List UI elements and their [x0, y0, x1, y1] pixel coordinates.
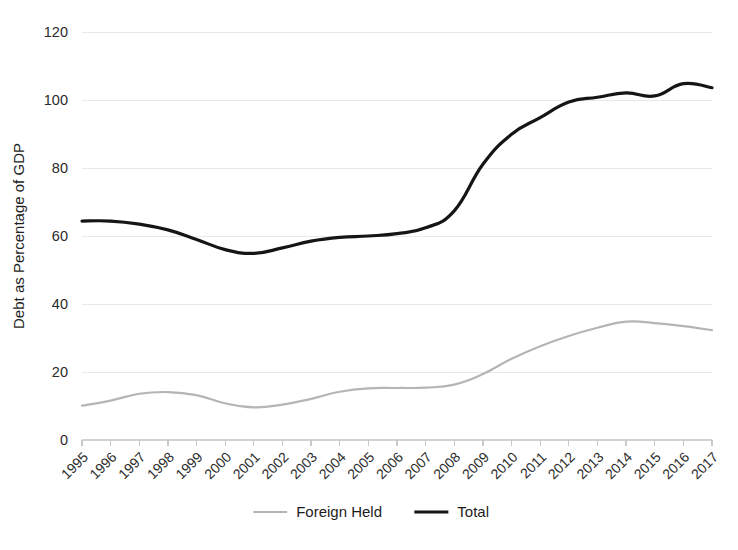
y-tick-label-80: 80: [52, 160, 68, 176]
x-tick-label-2014: 2014: [602, 449, 635, 482]
y-tick-label-120: 120: [44, 24, 68, 40]
data-series: [82, 83, 712, 407]
x-tick-label-2015: 2015: [631, 449, 664, 482]
x-tick-label-2008: 2008: [430, 449, 463, 482]
chart-container: 020406080100120 199519961997199819992000…: [0, 0, 738, 550]
x-axis-tick-labels: 1995199619971998199920002001200220032004…: [58, 449, 721, 482]
x-tick-label-1999: 1999: [172, 449, 205, 482]
x-tick-label-2013: 2013: [573, 449, 606, 482]
x-tick-label-2010: 2010: [487, 449, 520, 482]
y-tick-label-40: 40: [52, 296, 68, 312]
y-axis-tick-labels: 020406080100120: [44, 24, 68, 448]
y-tick-label-20: 20: [52, 364, 68, 380]
legend-label-total: Total: [457, 503, 489, 520]
x-tick-label-2002: 2002: [258, 449, 291, 482]
x-tick-label-2004: 2004: [316, 449, 349, 482]
x-tick-label-2009: 2009: [459, 449, 492, 482]
x-tick-label-2005: 2005: [344, 449, 377, 482]
axis-tick-marks: [82, 440, 712, 446]
x-tick-label-2011: 2011: [517, 449, 550, 482]
x-tick-label-2012: 2012: [545, 449, 578, 482]
x-tick-label-2006: 2006: [373, 449, 406, 482]
x-tick-label-1998: 1998: [144, 449, 177, 482]
series-line-foreign-held: [82, 321, 712, 407]
x-tick-label-2003: 2003: [287, 449, 320, 482]
y-axis-title: Debt as Percentage of GDP: [10, 143, 27, 329]
x-tick-label-2017: 2017: [688, 449, 721, 482]
y-tick-label-0: 0: [60, 432, 68, 448]
chart-legend: Foreign HeldTotal: [253, 503, 489, 520]
x-tick-label-2007: 2007: [401, 449, 434, 482]
legend-label-foreign-held: Foreign Held: [296, 503, 382, 520]
x-tick-label-2000: 2000: [201, 449, 234, 482]
x-tick-label-1995: 1995: [58, 449, 91, 482]
y-tick-label-60: 60: [52, 228, 68, 244]
x-tick-label-2016: 2016: [659, 449, 692, 482]
x-tick-label-1996: 1996: [86, 449, 119, 482]
x-tick-label-1997: 1997: [115, 449, 148, 482]
y-tick-label-100: 100: [44, 92, 68, 108]
x-tick-label-2001: 2001: [230, 449, 263, 482]
line-chart: 020406080100120 199519961997199819992000…: [0, 0, 738, 550]
